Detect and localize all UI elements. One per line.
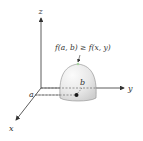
z-axis-label: z xyxy=(38,7,44,16)
point-a-b xyxy=(75,93,79,97)
max-leader-line xyxy=(78,55,80,62)
max-inequality-label: f(a, b) ≥ f(x, y) xyxy=(54,43,111,52)
y-axis-label: y xyxy=(127,84,133,93)
b-label: b xyxy=(80,78,85,87)
max-point-marker xyxy=(77,63,79,65)
max-point-diagram: z y x a b f(a, b) ≥ f(x, y) xyxy=(0,0,143,141)
a-label: a xyxy=(29,90,34,99)
x-axis-label: x xyxy=(9,124,14,133)
